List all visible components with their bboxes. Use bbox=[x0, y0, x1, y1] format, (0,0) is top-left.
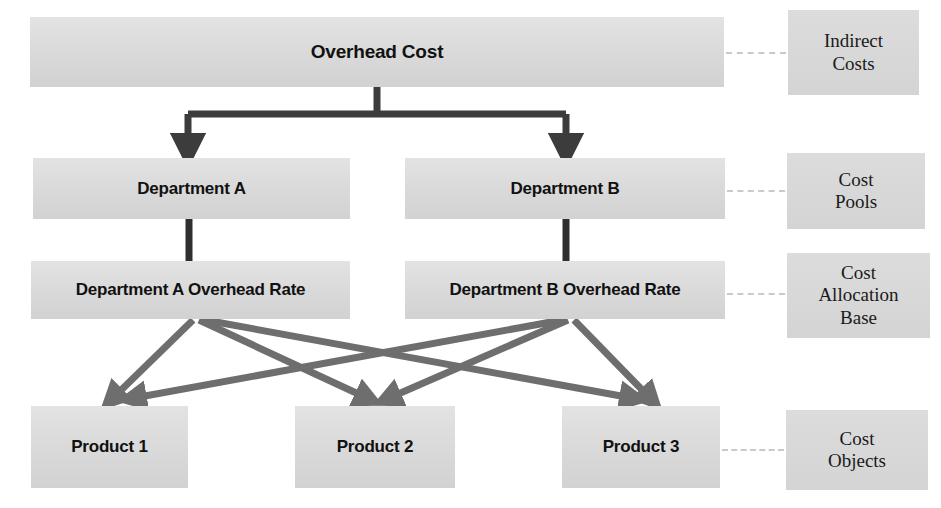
dashed-connector-cost-objects bbox=[722, 449, 784, 451]
dashed-connector-cost-pools bbox=[727, 190, 785, 192]
diagram-canvas: Overhead Cost Department A Department B … bbox=[0, 0, 941, 508]
legend-indirect-costs-line1: Indirect bbox=[824, 30, 883, 52]
legend-cost-objects-line2: Objects bbox=[828, 450, 886, 472]
node-department-a-overhead-rate[interactable]: Department A Overhead Rate bbox=[31, 261, 350, 319]
legend-cost-objects[interactable]: Cost Objects bbox=[786, 410, 928, 490]
dashed-connector-indirect-costs bbox=[726, 52, 786, 54]
node-department-a-overhead-rate-label: Department A Overhead Rate bbox=[76, 280, 306, 300]
node-overhead-cost-label: Overhead Cost bbox=[311, 41, 444, 63]
legend-cost-allocation-base-line1: Cost bbox=[841, 262, 876, 284]
legend-cost-pools[interactable]: Cost Pools bbox=[787, 153, 925, 229]
legend-indirect-costs[interactable]: Indirect Costs bbox=[788, 10, 919, 95]
legend-cost-pools-line1: Cost bbox=[839, 169, 874, 191]
node-department-b-overhead-rate-label: Department B Overhead Rate bbox=[450, 280, 681, 300]
node-product-3-label: Product 3 bbox=[603, 437, 680, 457]
legend-cost-allocation-base-line2: Allocation bbox=[818, 284, 898, 306]
node-department-a[interactable]: Department A bbox=[33, 158, 350, 219]
node-overhead-cost[interactable]: Overhead Cost bbox=[30, 17, 724, 87]
legend-cost-pools-line2: Pools bbox=[835, 191, 877, 213]
legend-cost-allocation-base-line3: Base bbox=[840, 307, 877, 329]
node-product-1[interactable]: Product 1 bbox=[31, 406, 188, 488]
connector-rate-b-to-products bbox=[134, 320, 650, 398]
legend-indirect-costs-line2: Costs bbox=[832, 53, 874, 75]
legend-cost-allocation-base[interactable]: Cost Allocation Base bbox=[787, 253, 930, 338]
node-department-a-label: Department A bbox=[137, 179, 245, 199]
node-department-b[interactable]: Department B bbox=[405, 158, 725, 219]
dashed-connector-cost-allocation-base bbox=[727, 293, 785, 295]
node-product-2-label: Product 2 bbox=[337, 437, 414, 457]
legend-cost-objects-line1: Cost bbox=[840, 428, 875, 450]
connector-rate-a-to-products bbox=[113, 320, 632, 398]
node-product-3[interactable]: Product 3 bbox=[562, 406, 720, 488]
node-product-1-label: Product 1 bbox=[71, 437, 148, 457]
node-department-b-overhead-rate[interactable]: Department B Overhead Rate bbox=[405, 261, 725, 319]
node-department-b-label: Department B bbox=[510, 179, 619, 199]
connector-overhead-to-departments bbox=[188, 87, 566, 151]
node-product-2[interactable]: Product 2 bbox=[295, 406, 455, 488]
